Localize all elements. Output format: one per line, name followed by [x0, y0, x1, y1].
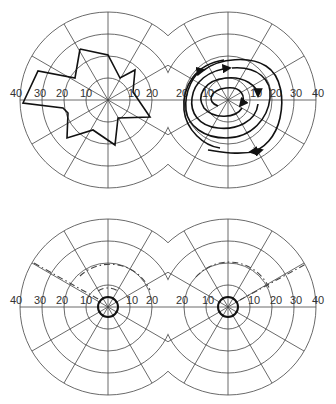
svg-text:20: 20	[56, 87, 68, 99]
svg-text:10: 10	[80, 87, 92, 99]
svg-text:40: 40	[312, 87, 324, 99]
svg-text:20: 20	[56, 294, 68, 306]
svg-text:40: 40	[10, 294, 22, 306]
axis-labels-bottom-left: 40 30 20 10 10 20	[10, 294, 158, 306]
field-markings-bottom-left	[34, 263, 150, 317]
svg-text:30: 30	[34, 87, 46, 99]
spiral-trajectory	[184, 60, 282, 154]
svg-text:30: 30	[34, 294, 46, 306]
svg-text:20: 20	[146, 294, 158, 306]
field-markings-bottom-right	[196, 262, 306, 317]
svg-text:40: 40	[312, 294, 324, 306]
svg-text:20: 20	[146, 87, 158, 99]
svg-text:20: 20	[176, 294, 188, 306]
svg-text:10: 10	[126, 294, 138, 306]
svg-text:10: 10	[248, 294, 260, 306]
axis-labels-top-right: 20 10 10 20 30 40	[176, 87, 324, 99]
svg-text:10: 10	[202, 294, 214, 306]
axis-labels-bottom-right: 20 10 10 20 30 40	[176, 294, 324, 306]
perimetry-figure: 40 30 20 10 10 20 20 10 10 20 30 40	[0, 0, 336, 404]
svg-text:40: 40	[10, 87, 22, 99]
svg-text:30: 30	[290, 87, 302, 99]
svg-text:10: 10	[80, 294, 92, 306]
svg-text:20: 20	[270, 294, 282, 306]
svg-text:30: 30	[290, 294, 302, 306]
